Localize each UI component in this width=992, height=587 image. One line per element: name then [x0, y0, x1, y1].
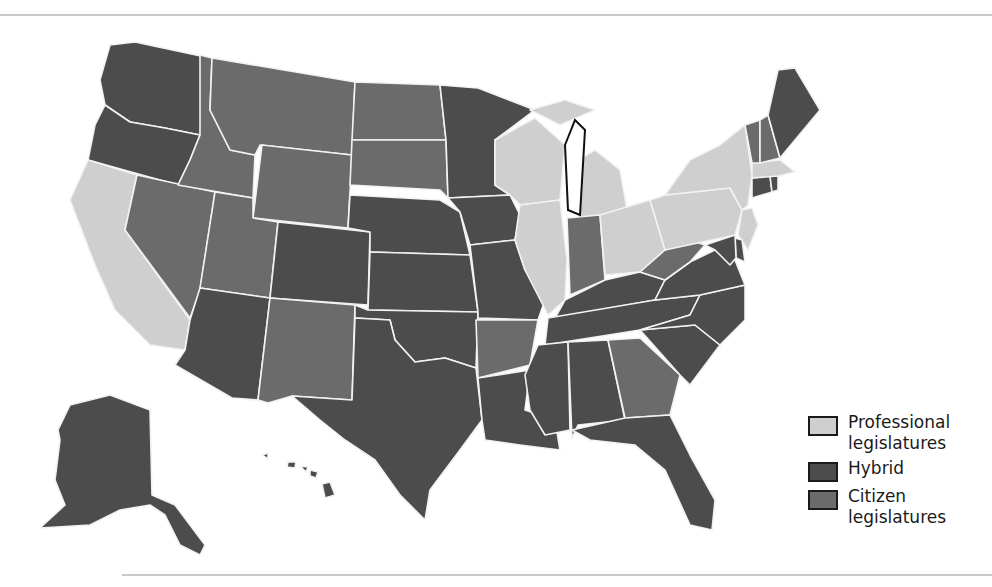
legend-swatch-citizen [808, 490, 838, 510]
state-RI [770, 176, 778, 192]
state-NM [258, 298, 355, 403]
state-MT [210, 58, 355, 155]
legend: Professional legislatures Hybrid Citizen… [808, 412, 992, 532]
state-WY [253, 145, 352, 228]
state-AK [40, 395, 205, 555]
legend-swatch-hybrid [808, 462, 838, 482]
legend-label-line: Professional [848, 412, 950, 433]
legend-item-citizen: Citizen legislatures [808, 486, 992, 528]
legend-label-line: legislatures [848, 507, 946, 528]
state-KS [368, 252, 478, 312]
legend-label-hybrid: Hybrid [848, 458, 904, 479]
legend-label-professional: Professional legislatures [848, 412, 950, 454]
state-FL [572, 415, 715, 530]
legend-label-line: Hybrid [848, 458, 904, 479]
legend-item-professional: Professional legislatures [808, 412, 992, 454]
legend-swatch-professional [808, 416, 838, 436]
legend-label-line: legislatures [848, 433, 950, 454]
legend-label-citizen: Citizen legislatures [848, 486, 946, 528]
state-ND [352, 82, 446, 140]
legend-item-hybrid: Hybrid [808, 458, 992, 482]
legend-label-line: Citizen [848, 486, 946, 507]
state-HI [262, 453, 335, 498]
state-CT [752, 176, 772, 198]
state-CO [270, 222, 370, 305]
bottom-rule [122, 574, 992, 576]
state-ME [768, 68, 820, 158]
state-SD [350, 140, 448, 198]
